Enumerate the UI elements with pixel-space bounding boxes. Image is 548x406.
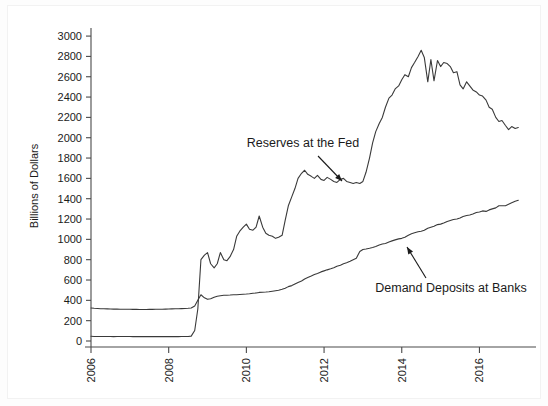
x-axis-ticks: 200620082010201220142016	[85, 347, 485, 382]
y-axis-title: Billions of Dollars	[28, 143, 40, 228]
x-tick-label: 2010	[240, 358, 252, 382]
x-tick-label: 2006	[85, 358, 97, 382]
x-tick-label: 2008	[163, 358, 175, 382]
x-tick-label: 2012	[318, 358, 330, 382]
reserves-annotation-text: Reserves at the Fed	[247, 136, 360, 150]
y-tick-label: 3000	[58, 30, 82, 42]
chart-page: 0200400600800100012001400160018002000220…	[0, 0, 548, 406]
y-tick-label: 1600	[58, 172, 82, 184]
y-tick-label: 800	[64, 254, 82, 266]
x-tick-label: 2014	[396, 358, 408, 382]
y-tick-label: 400	[64, 294, 82, 306]
chart-annotations: Reserves at the FedDemand Deposits at Ba…	[247, 136, 527, 295]
deposits-annotation-arrow-head	[407, 247, 413, 254]
y-tick-label: 2000	[58, 132, 82, 144]
y-tick-label: 2400	[58, 91, 82, 103]
y-axis-ticks: 0200400600800100012001400160018002000220…	[58, 30, 91, 347]
y-tick-label: 0	[76, 335, 82, 347]
y-tick-label: 2200	[58, 111, 82, 123]
x-tick-label: 2016	[473, 358, 485, 382]
y-tick-label: 200	[64, 315, 82, 327]
y-tick-label: 1000	[58, 233, 82, 245]
deposits-annotation-text: Demand Deposits at Banks	[375, 281, 526, 295]
y-tick-label: 600	[64, 274, 82, 286]
y-tick-label: 2600	[58, 71, 82, 83]
y-tick-label: 1200	[58, 213, 82, 225]
y-tick-label: 1400	[58, 193, 82, 205]
chart-canvas: 0200400600800100012001400160018002000220…	[8, 6, 540, 398]
y-tick-label: 2800	[58, 50, 82, 62]
line-chart: 0200400600800100012001400160018002000220…	[8, 6, 540, 398]
y-tick-label: 1800	[58, 152, 82, 164]
